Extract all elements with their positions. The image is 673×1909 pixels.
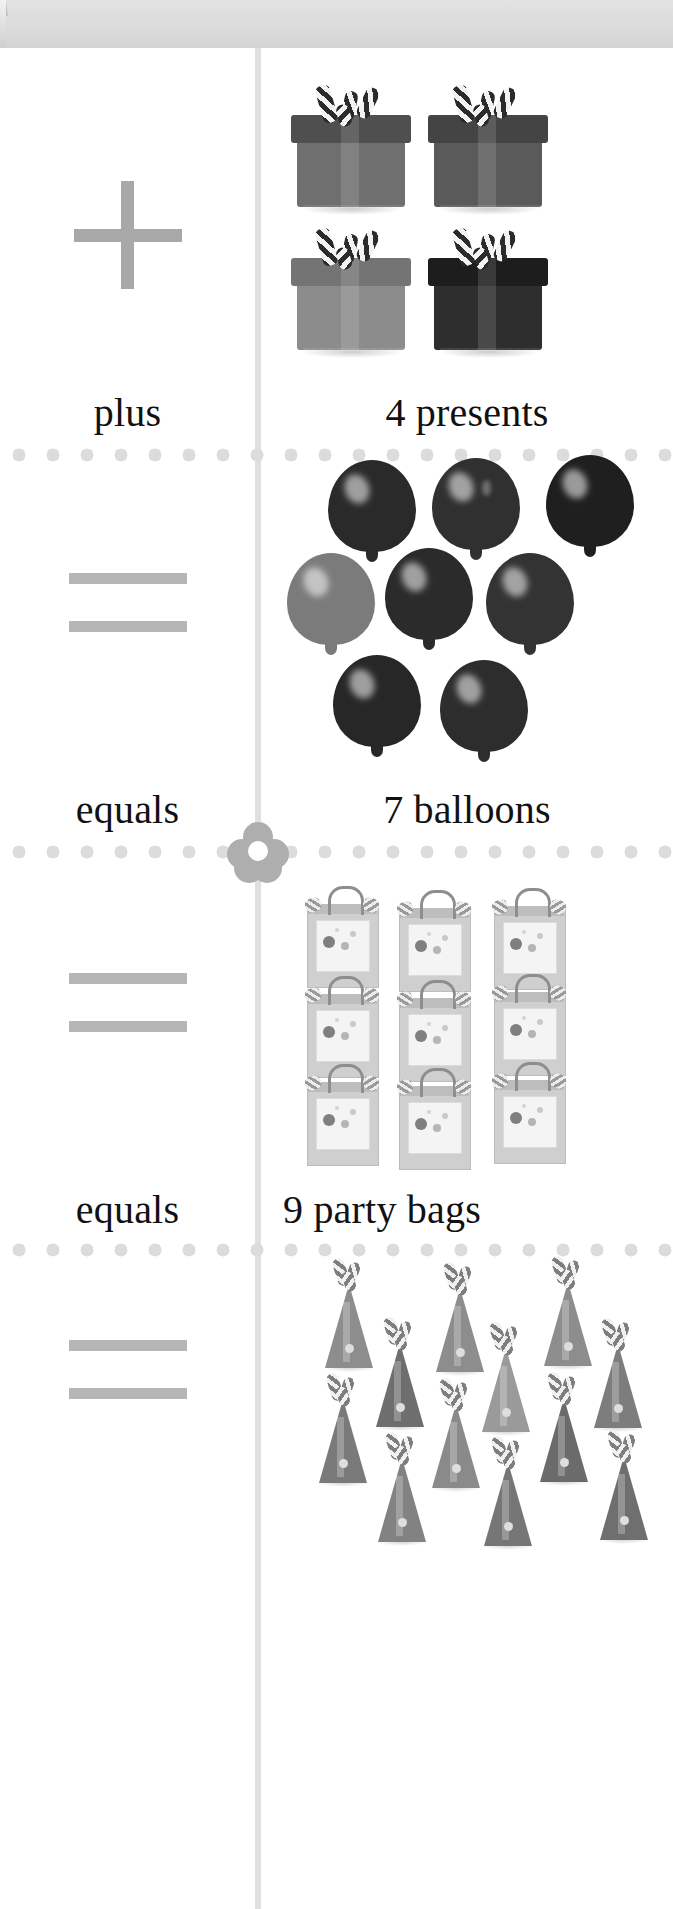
bag-dot	[323, 936, 335, 948]
party-bag-item	[303, 884, 381, 988]
ribbon-curl	[355, 86, 382, 121]
bag-dot	[522, 1016, 526, 1020]
bag-dot	[341, 1032, 349, 1040]
present-bow	[313, 85, 393, 129]
hat-pompom	[550, 1256, 584, 1292]
hat-sheen	[612, 1362, 619, 1422]
hat-pompom	[384, 1432, 418, 1468]
balloon-bulb	[385, 548, 473, 640]
equals-icon	[69, 1340, 187, 1402]
bag-dot	[433, 1036, 441, 1044]
bag-dot	[415, 940, 427, 952]
balloon-knot	[524, 641, 536, 655]
balloon-knot	[423, 636, 435, 650]
bag-dot	[427, 1110, 431, 1114]
equals-icon-bottom-bar	[69, 621, 187, 632]
ribbon-curl	[314, 227, 339, 268]
hat-pompom	[382, 1317, 416, 1353]
count-label-balloons: 7 balloons	[261, 790, 673, 830]
row-divider-dotted	[0, 1243, 673, 1257]
bag-dot	[341, 942, 349, 950]
hat-dot	[560, 1458, 569, 1467]
hat-dot	[452, 1464, 461, 1473]
hat-dot	[396, 1403, 405, 1412]
bag-dot	[427, 1022, 431, 1026]
party-bag-item	[303, 1062, 381, 1166]
hat-dot	[504, 1522, 513, 1531]
present-bow	[450, 85, 530, 129]
bag-dot	[350, 1021, 356, 1027]
operator-equals-sign-3	[0, 1340, 255, 1402]
hat-pompom	[606, 1430, 640, 1466]
balloon-item	[432, 458, 520, 562]
bag-handle	[420, 980, 456, 1009]
present-item	[291, 228, 411, 356]
bag-handle	[328, 976, 364, 1005]
bag-dot	[323, 1114, 335, 1126]
bag-dot	[510, 1024, 522, 1036]
present-bow	[450, 228, 530, 272]
hat-sheen	[454, 1306, 461, 1366]
bag-dot	[510, 1112, 522, 1124]
bag-dot	[442, 1113, 448, 1119]
bag-handle	[515, 888, 551, 917]
balloon-bulb	[432, 458, 520, 550]
balloon-item	[440, 660, 528, 764]
balloon-knot	[478, 748, 490, 762]
bag-dot	[510, 938, 522, 950]
equals-icon-bottom-bar	[69, 1021, 187, 1032]
bag-dot	[528, 1030, 536, 1038]
hat-pompom	[438, 1378, 472, 1414]
bag-dot	[433, 946, 441, 954]
bag-dot	[350, 1109, 356, 1115]
party-hat-item	[366, 1432, 438, 1544]
balloon-item	[287, 553, 375, 657]
bag-dot	[341, 1120, 349, 1128]
hat-pompom	[325, 1373, 359, 1409]
page-root: plus	[0, 0, 673, 1909]
present-item	[291, 85, 411, 213]
operator-plus-sign	[0, 180, 255, 290]
hat-dot	[620, 1516, 629, 1525]
operator-equals-sign-1	[0, 573, 255, 635]
balloon-bulb	[486, 553, 574, 645]
bag-dot	[433, 1124, 441, 1132]
hat-pompom	[488, 1322, 522, 1358]
bag-dot	[537, 1019, 543, 1025]
bag-dot	[335, 1018, 339, 1022]
present-bow	[313, 228, 393, 272]
hat-sheen	[337, 1417, 344, 1477]
balloon-item	[546, 455, 634, 559]
bag-dot	[335, 928, 339, 932]
equals-icon	[69, 973, 187, 1035]
balloon-knot	[371, 743, 383, 757]
hat-dot	[502, 1408, 511, 1417]
bag-handle	[515, 974, 551, 1003]
ribbon-curl	[492, 229, 519, 264]
hat-sheen	[618, 1474, 625, 1534]
bag-handle	[515, 1062, 551, 1091]
hat-pompom	[331, 1258, 365, 1294]
equals-icon-top-bar	[69, 573, 187, 584]
hat-pompom	[600, 1318, 634, 1354]
balloon-highlight-small	[482, 480, 491, 496]
balloon-bulb	[546, 455, 634, 547]
bag-dot	[522, 930, 526, 934]
bag-dot	[537, 1107, 543, 1113]
count-label-presents: 4 presents	[261, 393, 673, 433]
equals-icon	[69, 573, 187, 635]
row-divider-dotted	[0, 845, 673, 859]
bag-dot	[335, 1106, 339, 1110]
balloon-bulb	[287, 553, 375, 645]
hat-sheen	[562, 1300, 569, 1360]
ribbon-curl	[355, 229, 382, 264]
equals-icon-top-bar	[69, 973, 187, 984]
hat-pompom	[442, 1262, 476, 1298]
balloon-bulb	[328, 460, 416, 552]
flower-icon	[227, 822, 289, 882]
balloon-item	[333, 655, 421, 759]
page-header-band	[0, 0, 673, 48]
party-bag-item	[490, 1060, 568, 1164]
hat-sheen	[558, 1416, 565, 1476]
hat-pompom	[546, 1372, 580, 1408]
